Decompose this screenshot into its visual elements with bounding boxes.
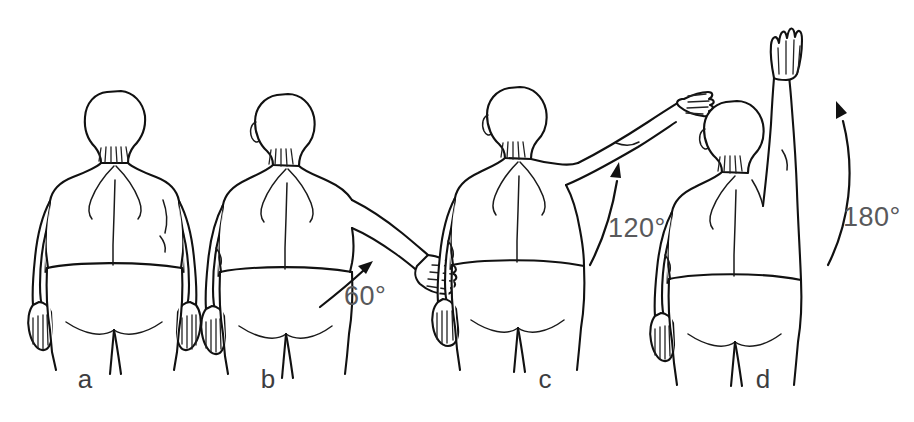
back-anatomy-c <box>493 162 545 262</box>
inner-leg2-d <box>735 342 742 386</box>
panel-label-a: a <box>78 364 93 394</box>
back-anatomy-d <box>710 176 763 276</box>
back-anatomy-b <box>261 169 313 269</box>
inner-leg-c <box>514 328 518 372</box>
waistband-c <box>452 260 584 266</box>
waistband-b <box>220 267 352 272</box>
inner-leg-d <box>731 342 735 386</box>
angle-label-180: 180° <box>843 202 901 232</box>
arm-raised-inner-d <box>763 78 774 206</box>
shorts-right-a <box>174 268 182 370</box>
torso-right-b <box>350 228 354 272</box>
arm-raised-outer-d <box>789 76 801 280</box>
shoulder-right-c <box>531 159 578 165</box>
arm-abducted-lower-c <box>566 122 676 185</box>
shorts-left-a <box>47 268 56 370</box>
shoulder-left-c <box>449 158 505 269</box>
angle-label-120: 120° <box>608 213 666 243</box>
head-outline-a <box>85 91 145 163</box>
inner-leg2-b <box>286 334 293 378</box>
torso-right-c <box>566 185 584 266</box>
shorts-left-d <box>669 279 677 385</box>
arm-abducted-upper-b <box>352 200 428 255</box>
shorts-right-d <box>794 280 801 385</box>
shoulder-left-d <box>666 172 722 283</box>
head-outline-b <box>255 94 315 166</box>
angle-arrow-120-head <box>610 162 621 178</box>
panel-label-d: d <box>756 364 770 394</box>
angle-arrow-180-head <box>836 101 847 119</box>
angle-arrow-180 <box>828 101 850 265</box>
elbow-abducted-c <box>616 142 639 145</box>
inner-leg-b <box>282 334 286 378</box>
figure-canvas: 60° <box>0 0 914 422</box>
shorts-left-c <box>452 265 460 370</box>
waistband-d <box>669 274 801 280</box>
head-outline-c <box>487 87 547 159</box>
inner-leg2-a <box>114 330 121 374</box>
head-outline-d <box>704 101 764 173</box>
angle-label-60: 60° <box>344 281 386 311</box>
panel-a-figure <box>28 91 201 374</box>
angle-arrow-180-arc <box>828 121 850 265</box>
shorts-left-b <box>220 272 228 374</box>
shorts-right-c <box>577 266 584 370</box>
inner-leg-a <box>110 330 114 374</box>
panel-label-b: b <box>261 364 275 394</box>
waistband-a <box>47 263 182 268</box>
panel-d-figure <box>650 28 802 386</box>
panel-b-figure <box>201 94 456 378</box>
elbow-raised-d <box>782 150 787 170</box>
inner-leg2-c <box>518 328 525 372</box>
arm-abducted-upper-c <box>578 99 684 163</box>
shoulder-abduction-figure: 60° <box>0 0 914 422</box>
shoulder-left-b <box>217 165 273 276</box>
panel-label-c: c <box>539 364 552 394</box>
